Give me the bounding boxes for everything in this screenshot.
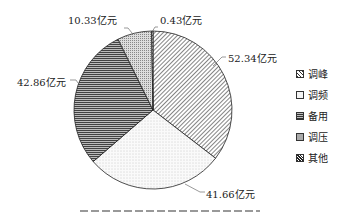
data-label-voltage: 10.33亿元 [68,12,117,27]
legend-item-voltage: 调压 [296,126,328,147]
horizontal-hatch-swatch-icon [296,112,304,120]
pie-chart [0,0,341,214]
data-label-freq: 41.66亿元 [206,186,255,201]
legend-label: 调峰 [308,66,328,81]
data-label-other: 0.43亿元 [160,12,202,27]
grid-swatch-icon [296,133,304,141]
legend-item-peak: 调峰 [296,63,328,84]
data-label-peak: 52.34亿元 [228,50,277,65]
diagonal-hatch-swatch-icon [296,70,304,78]
legend-label: 调压 [308,129,328,144]
data-label-reserve: 42.86亿元 [17,74,66,89]
legend-label: 备用 [308,108,328,123]
legend-label: 其他 [308,150,328,165]
diagonal-hatch-swatch-icon [296,154,304,162]
legend-item-freq: 调频 [296,84,328,105]
figure-caption-clipped [80,206,260,214]
legend: 调峰 调频 备用 调压 其他 [296,63,328,168]
legend-label: 调频 [308,87,328,102]
dotted-swatch-icon [296,91,304,99]
legend-item-reserve: 备用 [296,105,328,126]
legend-item-other: 其他 [296,147,328,168]
